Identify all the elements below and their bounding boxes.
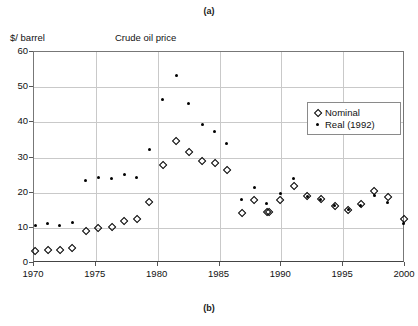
data-point	[32, 248, 39, 255]
x-tick-mark-2000	[404, 262, 405, 266]
data-point	[121, 218, 128, 225]
data-point	[277, 197, 284, 204]
plot-area	[33, 51, 404, 262]
data-point	[108, 223, 115, 230]
x-tick-label-1985: 1985	[199, 268, 239, 279]
data-point	[292, 177, 295, 180]
y-tick-label-10: 10	[2, 221, 28, 232]
data-point	[225, 142, 228, 145]
data-point	[279, 192, 282, 195]
y-tick-mark-30	[29, 157, 33, 158]
y-tick-label-0: 0	[2, 256, 28, 267]
data-point	[56, 246, 63, 253]
data-point	[371, 188, 378, 195]
data-point	[84, 179, 87, 182]
data-point	[240, 198, 243, 201]
y-tick-mark-40	[29, 121, 33, 122]
data-point	[69, 245, 76, 252]
data-point	[135, 176, 138, 179]
data-point	[161, 98, 164, 101]
data-point	[97, 176, 100, 179]
x-tick-mark-1970	[33, 262, 34, 266]
data-point	[95, 224, 102, 231]
x-tick-label-1990: 1990	[260, 268, 300, 279]
gridline-x-1980	[158, 52, 159, 261]
y-tick-label-50: 50	[2, 80, 28, 91]
x-tick-mark-1980	[157, 262, 158, 266]
x-tick-label-1980: 1980	[137, 268, 177, 279]
data-point	[251, 197, 258, 204]
data-point	[148, 148, 151, 151]
gridline-x-1985	[220, 52, 221, 261]
gridline-x-1995	[343, 52, 344, 261]
data-point	[211, 160, 218, 167]
data-point	[213, 130, 216, 133]
y-tick-label-20: 20	[2, 186, 28, 197]
x-tick-label-2000: 2000	[384, 268, 418, 279]
y-tick-label-40: 40	[2, 115, 28, 126]
data-point	[265, 202, 268, 205]
gridline-y-20	[34, 193, 403, 194]
gridline-y-30	[34, 158, 403, 159]
y-tick-mark-60	[29, 51, 33, 52]
y-axis-title: $/ barrel	[10, 32, 45, 43]
data-point	[201, 123, 204, 126]
chart-legend: Nominal Real (1992)	[307, 102, 401, 135]
data-point	[384, 193, 391, 200]
legend-item-nominal: Nominal	[312, 106, 396, 118]
data-point	[110, 177, 113, 180]
data-point	[199, 158, 206, 165]
x-tick-label-1975: 1975	[75, 268, 115, 279]
data-point	[265, 209, 272, 216]
x-tick-mark-1990	[280, 262, 281, 266]
open-diamond-icon	[312, 107, 325, 118]
data-point	[71, 221, 74, 224]
y-tick-mark-50	[29, 86, 33, 87]
data-point	[46, 222, 49, 225]
gridline-y-50	[34, 87, 403, 88]
data-point	[146, 198, 153, 205]
data-point	[175, 74, 178, 77]
data-point	[159, 161, 166, 168]
data-point	[44, 246, 51, 253]
legend-label-nominal: Nominal	[325, 107, 360, 118]
data-point	[187, 102, 190, 105]
data-point	[290, 182, 297, 189]
data-point	[317, 195, 324, 202]
data-point	[357, 200, 364, 207]
data-point	[331, 203, 338, 210]
y-tick-mark-10	[29, 227, 33, 228]
x-tick-mark-1985	[219, 262, 220, 266]
x-tick-mark-1995	[342, 262, 343, 266]
x-tick-label-1970: 1970	[13, 268, 53, 279]
figure-container: (a) $/ barrel Crude oil price 0102030405…	[0, 0, 418, 326]
y-tick-label-30: 30	[2, 151, 28, 162]
data-point	[34, 224, 37, 227]
figure-caption-b: (b)	[0, 303, 418, 313]
chart-title: Crude oil price	[115, 32, 176, 43]
data-point	[82, 228, 89, 235]
legend-label-real: Real (1992)	[325, 119, 375, 130]
x-tick-mark-1975	[95, 262, 96, 266]
data-point	[58, 224, 61, 227]
data-point	[238, 210, 245, 217]
x-tick-label-1995: 1995	[322, 268, 362, 279]
data-point	[185, 148, 192, 155]
data-point	[223, 166, 230, 173]
data-point	[123, 173, 126, 176]
data-point	[304, 192, 311, 199]
y-tick-label-60: 60	[2, 45, 28, 56]
y-tick-mark-20	[29, 192, 33, 193]
data-point	[253, 186, 256, 189]
legend-item-real: Real (1992)	[312, 118, 396, 130]
data-point	[345, 206, 352, 213]
data-point	[400, 216, 407, 223]
gridline-x-1990	[281, 52, 282, 261]
figure-caption-a: (a)	[0, 6, 418, 16]
data-point	[133, 216, 140, 223]
filled-dot-icon	[312, 119, 325, 130]
data-point	[173, 137, 180, 144]
